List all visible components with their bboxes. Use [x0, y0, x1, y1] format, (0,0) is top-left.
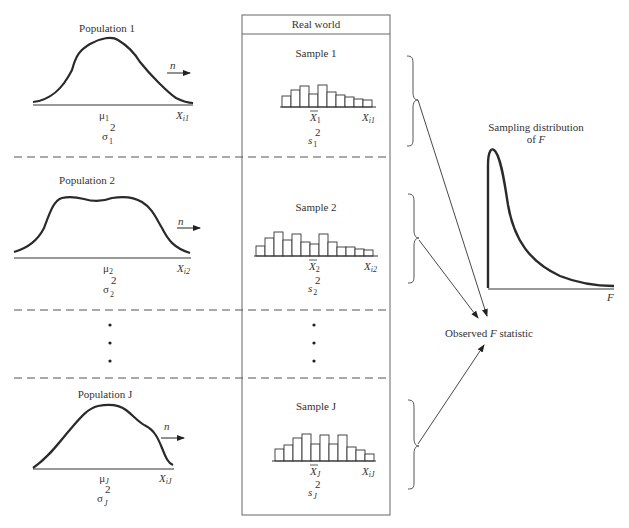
sample-2: Sample 2 X2 Xi2 s2 2 — [254, 201, 378, 297]
histogram-bar — [355, 249, 364, 256]
histogram-bar — [292, 234, 301, 256]
population-j-x-label: XiJ — [158, 472, 172, 486]
svg-text:2: 2 — [315, 126, 321, 138]
brace-j — [408, 400, 419, 489]
svg-text:2: 2 — [315, 478, 321, 490]
histogram-bar — [365, 454, 374, 461]
svg-text:2: 2 — [315, 274, 321, 286]
histogram-bar — [320, 435, 329, 461]
histogram-bar — [310, 244, 319, 256]
histogram-bar — [302, 434, 311, 461]
sample-1-histogram — [280, 85, 376, 107]
population-1-mean: μ1 — [99, 109, 109, 123]
histogram-bar — [283, 240, 292, 256]
population-1-n-label: n — [170, 59, 176, 71]
real-world-title: Real world — [292, 18, 341, 30]
svg-text:2: 2 — [111, 274, 117, 286]
ellipsis-right — [312, 323, 315, 362]
sample-j-mean: XJ — [309, 465, 321, 479]
anova-diagram: Real world Population 1 μ1 Xi1 σ1 2 n Po… — [0, 0, 629, 528]
sample-2-histogram — [254, 232, 378, 256]
histogram-bar — [274, 232, 283, 256]
histogram-bar — [354, 99, 363, 107]
histogram-bar — [282, 96, 291, 107]
histogram-bar — [275, 449, 284, 461]
population-2: Population 2 μ2 Xi2 σ2 2 n — [14, 174, 200, 299]
histogram-bar — [291, 90, 300, 107]
population-1: Population 1 μ1 Xi1 σ1 2 n — [33, 22, 193, 146]
histogram-bar — [328, 242, 337, 256]
sample-j: Sample J XJ XiJ sJ 2 — [272, 400, 376, 501]
f-distribution-curve — [488, 149, 614, 288]
ellipsis-left — [108, 323, 111, 362]
population-j-curve — [33, 405, 173, 468]
sample-2-mean: X2 — [308, 260, 320, 274]
histogram-bar — [356, 450, 365, 461]
brace-2 — [408, 194, 419, 283]
population-j-label: Population J — [78, 388, 133, 400]
observed-f-statistic: Observed F statistic — [445, 327, 533, 339]
histogram-bar — [345, 97, 354, 107]
sample-2-label: Sample 2 — [295, 201, 336, 213]
sampling-dist-title-line1: Sampling distribution — [488, 121, 584, 133]
histogram-bar — [293, 438, 302, 461]
svg-text:2: 2 — [110, 121, 116, 133]
braces — [407, 56, 419, 489]
histogram-bar — [329, 444, 338, 461]
f-axis-label: F — [606, 291, 614, 303]
arrows-to-observed-f — [418, 100, 487, 444]
population-1-curve — [33, 38, 193, 103]
sample-j-label: Sample J — [296, 400, 337, 412]
histogram-bar — [309, 94, 318, 107]
histogram-bar — [265, 238, 274, 256]
histogram-bar — [284, 445, 293, 461]
histogram-bar — [337, 247, 346, 256]
sample-j-x-label: XiJ — [361, 465, 375, 479]
population-2-curve — [14, 197, 190, 253]
histogram-bar — [311, 444, 320, 461]
histogram-bar — [363, 100, 372, 107]
svg-text:2: 2 — [105, 483, 111, 495]
sample-1-mean: X1 — [309, 111, 321, 125]
sample-1: Sample 1 X1 Xi1 s1 2 — [280, 47, 376, 149]
sampling-distribution: Sampling distribution of F F — [488, 121, 614, 303]
histogram-bar — [347, 447, 356, 461]
histogram-bar — [364, 250, 373, 256]
population-j-n-label: n — [164, 420, 170, 432]
population-1-label: Population 1 — [79, 22, 135, 34]
histogram-bar — [318, 85, 327, 107]
sample-j-histogram — [272, 434, 376, 461]
histogram-bar — [301, 242, 310, 256]
histogram-bar — [336, 95, 345, 107]
row-separators — [14, 157, 390, 378]
histogram-bar — [327, 92, 336, 107]
histogram-bar — [338, 435, 347, 461]
population-1-x-label: Xi1 — [175, 109, 189, 123]
population-2-x-label: Xi2 — [176, 262, 190, 276]
sample-2-x-label: Xi2 — [363, 260, 377, 274]
histogram-bar — [300, 86, 309, 107]
sampling-dist-title-line2: of F — [527, 133, 546, 145]
histogram-bar — [256, 246, 265, 256]
population-2-n-label: n — [178, 215, 184, 227]
sample-1-x-label: Xi1 — [361, 111, 375, 125]
histogram-bar — [319, 234, 328, 256]
brace-1 — [407, 56, 418, 146]
sample-1-label: Sample 1 — [295, 47, 336, 59]
population-2-label: Population 2 — [59, 174, 115, 186]
population-j: Population J μJ XiJ σJ 2 n — [33, 388, 184, 508]
histogram-bar — [346, 247, 355, 256]
